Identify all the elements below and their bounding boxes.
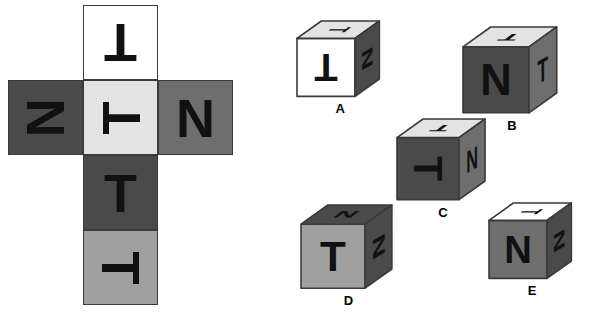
cube-option-c[interactable]: TTNC <box>396 118 490 223</box>
net-cell-right: N <box>158 80 233 155</box>
cube-option-a-label: A <box>296 101 384 116</box>
net-cell-center: T <box>83 80 158 155</box>
net-cell-top-letter: T <box>104 16 137 70</box>
net-cell-left: N <box>8 80 83 155</box>
cube-option-a[interactable]: TTNA <box>296 20 384 119</box>
net-cell-center-letter: T <box>94 101 148 134</box>
cube-net: TNTNTT <box>0 0 300 313</box>
cube-c-front-letter: T <box>405 156 451 181</box>
cube-a-front-letter: T <box>314 46 337 89</box>
net-cell-lower: T <box>83 155 158 230</box>
cube-option-e[interactable]: NTNE <box>488 202 576 301</box>
net-cell-bottom: T <box>83 230 158 305</box>
net-cell-left-letter: N <box>19 98 73 137</box>
cube-option-d[interactable]: TNND <box>300 204 397 311</box>
cube-e-front-letter: N <box>504 228 532 271</box>
cube-c-right-letter: N <box>466 139 478 180</box>
cube-option-c-label: C <box>396 205 490 220</box>
cube-d-front-letter: T <box>320 233 346 280</box>
cube-option-e-label: E <box>488 283 576 298</box>
net-cell-right-letter: N <box>176 91 215 145</box>
net-cell-lower-letter: T <box>104 166 137 220</box>
cube-option-d-label: D <box>300 293 397 308</box>
cube-b-right-letter: T <box>538 48 549 92</box>
puzzle-stage: TNTNTT TTNANTTBTTNCTNNDNTNE <box>0 0 611 313</box>
net-cell-top: T <box>83 5 158 80</box>
cube-b-front-letter: N <box>480 56 511 104</box>
net-cell-bottom-letter: T <box>94 251 148 284</box>
